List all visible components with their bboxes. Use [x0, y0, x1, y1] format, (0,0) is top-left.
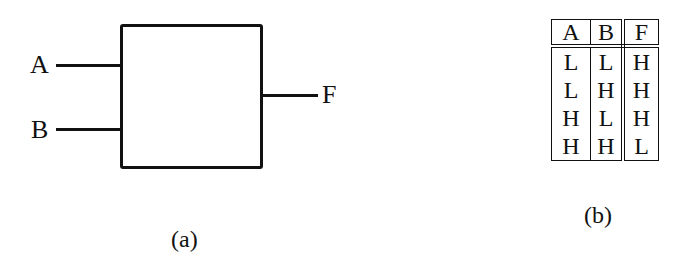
input-label-b: B: [31, 117, 48, 143]
cell: H: [552, 132, 591, 161]
table-header-row: A B F: [552, 20, 659, 47]
input-wire-a: [56, 64, 122, 67]
logic-block: [120, 24, 263, 169]
header-a: A: [552, 20, 591, 47]
input-label-a: A: [30, 52, 49, 78]
cell: H: [623, 104, 659, 132]
cell: H: [591, 132, 624, 161]
header-f: F: [623, 20, 659, 47]
output-wire-f: [260, 94, 318, 97]
cell: H: [591, 76, 624, 104]
cell: H: [552, 104, 591, 132]
output-label-f: F: [322, 82, 336, 108]
cell: H: [623, 76, 659, 104]
table-row: H H L: [552, 132, 659, 161]
table-row: H L H: [552, 104, 659, 132]
caption-b: (b): [584, 203, 612, 227]
header-b: B: [591, 20, 624, 47]
cell: H: [623, 46, 659, 76]
table-row: L H H: [552, 76, 659, 104]
truth-table: A B F L L H L H H H L H H H L: [551, 19, 659, 161]
cell: L: [591, 46, 624, 76]
table-row: L L H: [552, 46, 659, 76]
cell: L: [591, 104, 624, 132]
caption-a: (a): [171, 227, 198, 251]
cell: L: [552, 46, 591, 76]
cell: L: [623, 132, 659, 161]
cell: L: [552, 76, 591, 104]
input-wire-b: [56, 128, 122, 131]
